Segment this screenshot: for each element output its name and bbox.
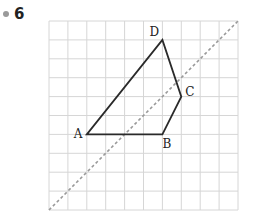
vertex-label-b: B [162,137,171,151]
grid-diagram: A B C D [0,0,254,221]
vertex-label-c: C [185,85,194,99]
quadrilateral-abcd [87,40,182,134]
vertex-label-d: D [149,25,159,39]
vertex-label-a: A [73,127,83,141]
